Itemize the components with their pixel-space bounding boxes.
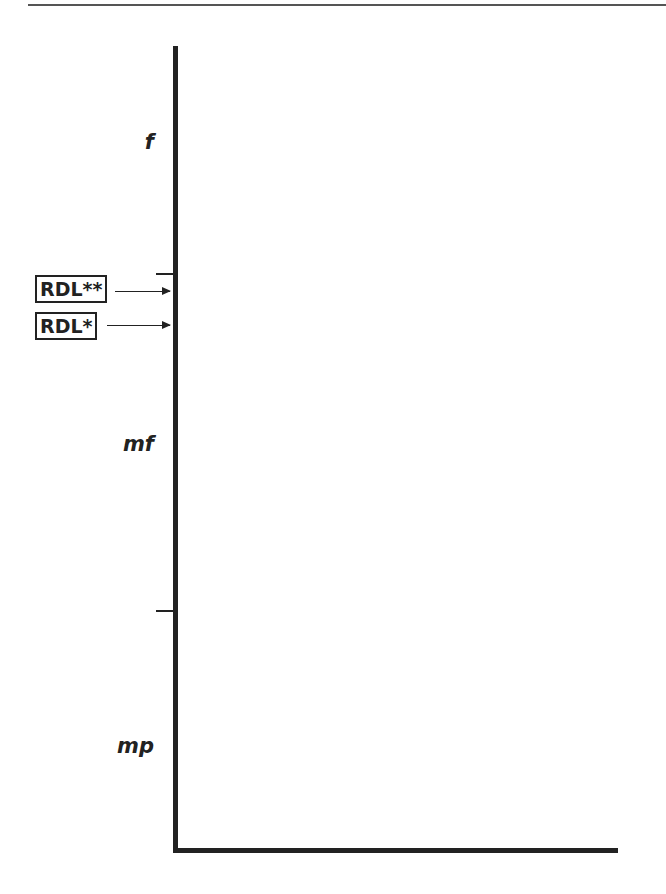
zone-label-mp: mp <box>94 734 154 758</box>
tick-f-mf-boundary <box>156 273 174 275</box>
rdl-star-label: RDL* <box>35 312 97 340</box>
top-rule <box>28 4 666 6</box>
zone-label-f: f <box>94 130 154 154</box>
horizontal-axis <box>173 848 618 853</box>
zone-label-mf: mf <box>94 432 154 456</box>
rdl-double-star-arrow-icon <box>115 291 170 292</box>
rdl-star-arrow-icon <box>107 325 170 326</box>
rdl-double-star-label: RDL** <box>35 275 107 303</box>
vertical-axis <box>173 46 178 853</box>
tick-mf-mp-boundary <box>156 610 174 612</box>
